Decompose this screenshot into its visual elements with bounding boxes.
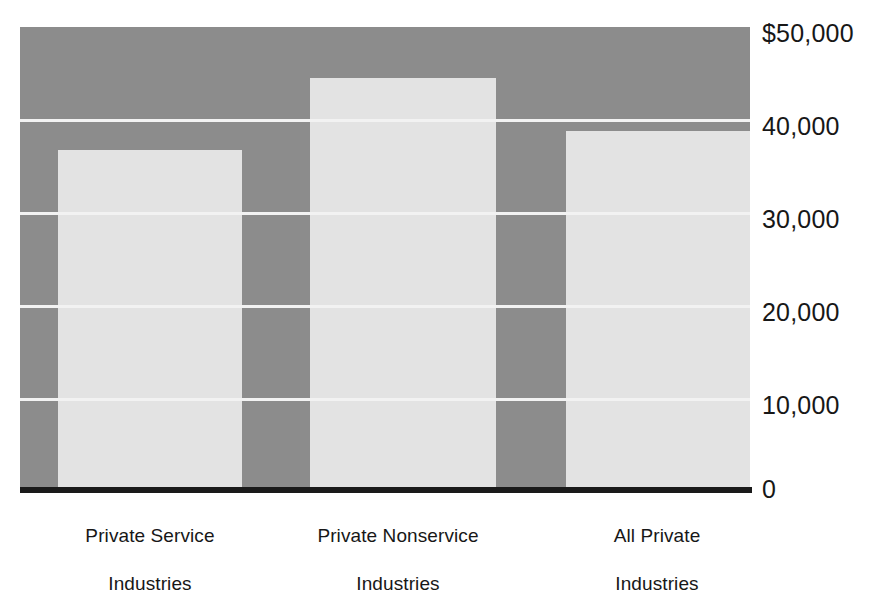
category-label-all-private-industries: All Private Industries [535,500,779,594]
gridline-30000 [20,212,750,215]
bar-private-nonservice-industries [310,78,496,492]
category-label-line2: Industries [275,572,521,594]
bar-private-service-industries [58,150,242,492]
y-tick-label-20000: 20,000 [762,300,840,325]
category-label-private-service-industries: Private Service Industries [20,500,280,594]
plot-area [20,27,750,492]
category-label-line1: Private Nonservice [275,524,521,548]
y-tick-label-40000: 40,000 [762,114,840,139]
y-tick-label-10000: 10,000 [762,393,840,418]
category-label-line2: Industries [535,572,779,594]
gridline-20000 [20,305,750,308]
bar-all-private-industries [566,131,750,492]
category-label-line1: All Private [535,524,779,548]
x-axis-baseline [20,487,752,493]
category-label-line2: Industries [20,572,280,594]
y-tick-label-50000: $50,000 [762,21,854,46]
y-tick-label-30000: 30,000 [762,207,840,232]
gridline-40000 [20,119,750,122]
gridline-10000 [20,398,750,401]
category-label-line1: Private Service [20,524,280,548]
category-label-private-nonservice-industries: Private Nonservice Industries [275,500,521,594]
y-tick-label-0: 0 [762,477,776,502]
